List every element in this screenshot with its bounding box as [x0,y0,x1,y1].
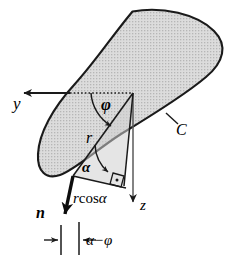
projection-label-cos: cos [79,190,99,206]
angle-label-phi: φ [101,96,111,113]
projection-label-alpha: α [99,190,107,206]
diagram-canvas [0,0,231,261]
angle-difference-label: α−φ [86,233,112,248]
angle-label-alpha: α [82,160,90,175]
curve-label-c: C [176,122,187,138]
projection-label-r-cos-alpha: rcosα [73,191,107,206]
normal-label-n: n [36,205,45,221]
radius-label-r: r [86,130,92,146]
figure-container: y z C φ r α rcosα n α−φ [0,0,231,261]
axis-label-y: y [13,95,21,112]
axis-label-z: z [140,198,146,213]
normal-vector-n [65,176,73,214]
